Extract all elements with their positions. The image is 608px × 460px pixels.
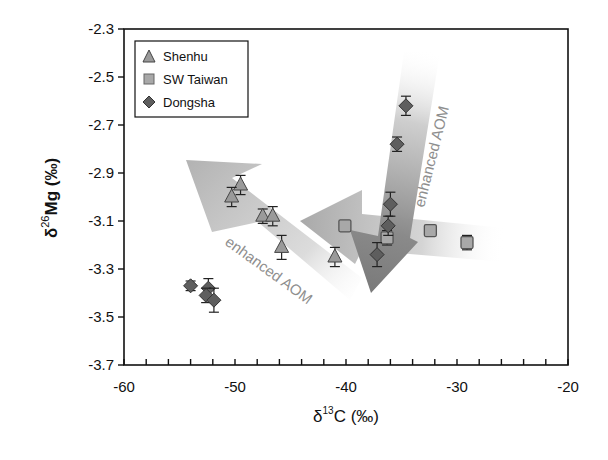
x-tick-label: -40	[335, 378, 357, 395]
legend-label-dongsha: Dongsha	[163, 95, 216, 110]
x-tick-label: -50	[224, 378, 246, 395]
y-tick-label: -3.3	[88, 260, 114, 277]
legend-square-icon	[144, 74, 154, 84]
y-tick-label: -2.5	[88, 68, 114, 85]
data-point-square-icon	[461, 237, 473, 249]
y-tick-label: -3.5	[88, 308, 114, 325]
y-tick-label: -2.3	[88, 20, 114, 37]
x-tick-label: -60	[113, 378, 135, 395]
legend-label-shenhu: Shenhu	[163, 49, 208, 64]
x-axis-ticks	[124, 359, 568, 365]
legend: Shenhu SW Taiwan Dongsha	[135, 41, 248, 117]
x-axis-title: δ13C (‰)	[313, 405, 379, 426]
y-tick-label: -3.1	[88, 212, 114, 229]
y-tick-label: -2.9	[88, 164, 114, 181]
y-axis-title: δ26Mg (‰)	[39, 158, 61, 238]
y-tick-label: -2.7	[88, 116, 114, 133]
data-point-square-icon	[381, 232, 393, 244]
y-axis-ticks	[118, 29, 124, 365]
x-tick-label: -30	[446, 378, 468, 395]
data-point-square-icon	[339, 220, 351, 232]
data-point-square-icon	[424, 225, 436, 237]
x-tick-label: -20	[557, 378, 579, 395]
scatter-chart: enhanced AOM enhanced AOM -60-50-40-30-2…	[0, 0, 608, 460]
y-axis-tick-labels: -2.3-2.5-2.7-2.9-3.1-3.3-3.5-3.7	[88, 20, 114, 373]
legend-label-sw-taiwan: SW Taiwan	[163, 72, 228, 87]
y-tick-label: -3.7	[88, 356, 114, 373]
x-axis-tick-labels: -60-50-40-30-20	[113, 378, 579, 395]
